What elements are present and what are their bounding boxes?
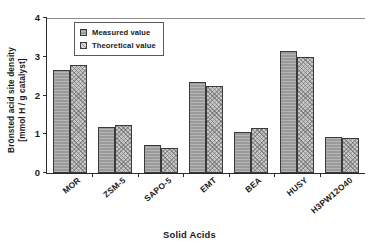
x-axis-title: Solid Acids: [0, 229, 379, 240]
legend-label-measured: Measured value: [92, 28, 150, 37]
bar-group: [320, 18, 365, 173]
legend-item-measured: Measured value: [80, 26, 156, 39]
bronsted-acid-site-density-chart: Brönsted acid site density [mmol H / g c…: [0, 0, 379, 249]
x-axis-category-label: ZSM-5: [101, 175, 127, 199]
bar-group: [183, 18, 228, 173]
legend-label-theoretical: Theoretical value: [92, 41, 156, 50]
bar-theoretical: [70, 65, 87, 173]
bar-theoretical: [161, 148, 178, 173]
bar-measured: [189, 82, 206, 173]
bar-theoretical: [115, 125, 132, 173]
legend-swatch-theoretical-icon: [80, 42, 87, 49]
x-axis-category-label: MOR: [60, 175, 82, 196]
x-axis-category-label: H3PW12O40: [309, 175, 355, 216]
y-axis-title-line1: Brönsted acid site density: [6, 47, 16, 153]
x-axis-category-labels: MORZSM-5SAPO-5EMTBEAHUSYH3PW12O40: [46, 175, 364, 223]
y-axis-title-line2: [mmol H / g catalyst]: [17, 47, 28, 153]
bar-measured: [144, 145, 161, 173]
legend: Measured value Theoretical value: [74, 22, 164, 56]
bar-measured: [325, 137, 342, 173]
x-axis-category-label: SAPO-5: [142, 175, 173, 203]
bar-theoretical: [297, 57, 314, 173]
x-axis-category-label: HUSY: [284, 175, 309, 198]
bar-theoretical: [206, 86, 223, 173]
bar-group: [229, 18, 274, 173]
legend-swatch-measured-icon: [80, 29, 87, 36]
y-axis-tick-label: 1: [35, 127, 40, 140]
y-axis-tick-label: 0: [35, 166, 40, 179]
y-axis-tick-label: 3: [35, 50, 40, 63]
bar-theoretical: [251, 128, 268, 173]
bar-measured: [53, 70, 70, 173]
y-axis-title: Brönsted acid site density [mmol H / g c…: [0, 0, 34, 200]
x-axis-category-label: EMT: [198, 175, 218, 194]
bar-measured: [234, 132, 251, 173]
x-axis-category-label: BEA: [243, 175, 263, 194]
bar-group: [274, 18, 319, 173]
bar-measured: [280, 51, 297, 173]
y-axis-tick-label: 4: [35, 11, 40, 24]
legend-item-theoretical: Theoretical value: [80, 39, 156, 52]
y-axis-tick-label: 2: [35, 89, 40, 102]
bar-measured: [98, 127, 115, 173]
bar-theoretical: [342, 138, 359, 173]
